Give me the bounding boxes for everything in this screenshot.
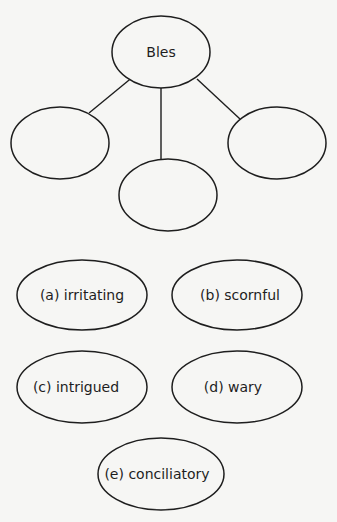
option-a-label: (a) irritating bbox=[40, 287, 124, 303]
branch-node-right[interactable] bbox=[228, 107, 326, 179]
option-a[interactable]: (a) irritating bbox=[17, 260, 147, 330]
option-b[interactable]: (b) scornful bbox=[172, 260, 302, 330]
branch-node-left[interactable] bbox=[11, 107, 109, 179]
center-node-label: Bles bbox=[146, 44, 175, 60]
center-node: Bles bbox=[112, 16, 210, 88]
option-e-label: (e) conciliatory bbox=[104, 466, 209, 482]
connector-right bbox=[197, 79, 240, 119]
connector-left bbox=[89, 76, 134, 113]
word-web-diagram: Bles (a) irritating (b) scornful (c) int… bbox=[0, 0, 337, 522]
option-c[interactable]: (c) intrigued bbox=[17, 351, 147, 423]
option-d-label: (d) wary bbox=[204, 379, 262, 395]
option-e[interactable]: (e) conciliatory bbox=[98, 438, 224, 510]
option-c-label: (c) intrigued bbox=[33, 379, 119, 395]
option-b-label: (b) scornful bbox=[200, 287, 280, 303]
option-d[interactable]: (d) wary bbox=[172, 351, 302, 423]
branch-node-middle[interactable] bbox=[119, 159, 217, 231]
